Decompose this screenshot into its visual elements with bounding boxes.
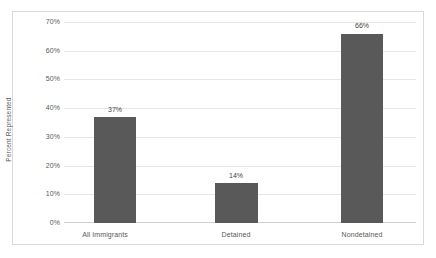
y-tick-30: 30%	[28, 133, 60, 140]
y-tick-50: 50%	[28, 75, 60, 82]
y-tick-70: 70%	[28, 18, 60, 25]
y-tick-20: 20%	[28, 162, 60, 169]
y-tick-40: 40%	[28, 104, 60, 111]
bar-value-all-immigrants: 37%	[85, 106, 145, 113]
y-tick-10: 10%	[28, 190, 60, 197]
bar-all-immigrants[interactable]	[94, 117, 136, 223]
y-tick-60: 60%	[28, 47, 60, 54]
bar-value-detained: 14%	[206, 172, 266, 179]
category-label-all-immigrants: All Immigrants	[55, 231, 155, 238]
bar-value-nondetained: 66%	[332, 22, 392, 29]
y-axis-title-label: Percent Represented	[5, 97, 12, 161]
category-label-nondetained: Nondetained	[312, 231, 412, 238]
y-tick-0: 0%	[28, 219, 60, 226]
bar-nondetained[interactable]	[341, 34, 383, 224]
category-label-detained: Detained	[186, 231, 286, 238]
bar-detained[interactable]	[215, 183, 258, 223]
plot-area: 37% 14% 66%	[64, 22, 416, 223]
bar-chart-figure: Percent Represented 70% 60% 50% 40% 30% …	[0, 0, 436, 258]
